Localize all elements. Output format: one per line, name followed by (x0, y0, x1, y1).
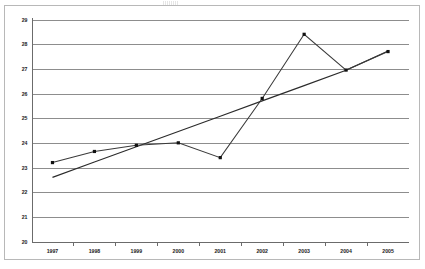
data-point-markers (51, 33, 390, 164)
x-tick-label: 2004 (340, 248, 352, 254)
data-point-marker (344, 68, 347, 71)
data-point-marker (177, 141, 180, 144)
y-tick-label: 28 (22, 41, 28, 47)
plot-area: 20212223242526272829 1997199819992000200… (0, 0, 425, 269)
y-tick-label: 20 (22, 239, 28, 245)
data-point-marker (135, 144, 138, 147)
x-tick-label: 1997 (47, 248, 59, 254)
x-tick-label: 2003 (298, 248, 310, 254)
data-point-marker (51, 161, 54, 164)
y-tick-label: 24 (22, 140, 28, 146)
y-axis-tick-labels: 20212223242526272829 (22, 17, 28, 245)
x-tick-label: 2005 (382, 248, 394, 254)
y-tick-label: 22 (22, 189, 28, 195)
gridlines-group (32, 21, 410, 218)
y-tick-label: 27 (22, 66, 28, 72)
y-tick-label: 26 (22, 91, 28, 97)
data-point-marker (261, 97, 264, 100)
x-tick-label: 2002 (256, 248, 268, 254)
y-tick-label: 21 (22, 214, 28, 220)
chart-screenshot: 20212223242526272829 1997199819992000200… (0, 0, 425, 269)
x-axis-tick-labels: 199719981999200020012002200320042005 (47, 248, 394, 254)
data-point-marker (219, 156, 222, 159)
x-tick-label: 2001 (214, 248, 226, 254)
x-tick-label: 1998 (89, 248, 101, 254)
data-point-marker (386, 50, 389, 53)
x-tick-label: 2000 (173, 248, 185, 254)
data-point-marker (303, 33, 306, 36)
x-axis-line-and-ticks (33, 243, 410, 246)
y-tick-label: 29 (22, 17, 28, 23)
x-tick-label: 1999 (131, 248, 143, 254)
data-point-marker (93, 150, 96, 153)
line-chart-svg: 20212223242526272829 1997199819992000200… (0, 0, 425, 269)
y-tick-label: 25 (22, 115, 28, 121)
y-tick-label: 23 (22, 165, 28, 171)
